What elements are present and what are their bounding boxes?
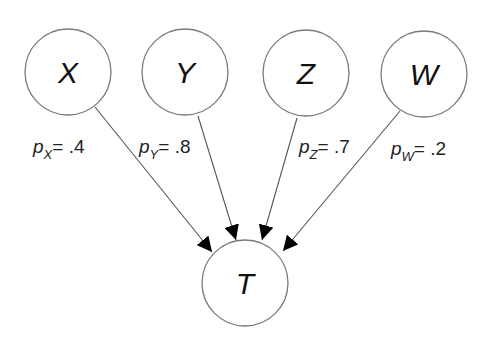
node-z: Z (263, 30, 349, 116)
node-label: W (410, 58, 441, 91)
prob-equals: = (52, 136, 68, 157)
prob-equals: = (318, 136, 334, 157)
probability-label-w: pW= .2 (390, 138, 446, 164)
node-y: Y (142, 29, 228, 115)
prob-value: .2 (430, 138, 446, 159)
node-w: W (381, 31, 467, 117)
arrow-icon (198, 116, 236, 240)
prob-equals: = (158, 136, 174, 157)
bayes-network-diagram: XYZWT pX= .4pY= .8pZ= .7pW= .2 (0, 0, 487, 339)
nodes-group: XYZWT (25, 29, 467, 326)
arrow-icon (95, 107, 212, 252)
node-label: Z (296, 57, 317, 90)
prob-value: .8 (175, 136, 191, 157)
prob-symbol: p (390, 138, 402, 159)
node-t: T (202, 240, 288, 326)
node-label: X (57, 56, 79, 89)
node-label: Y (175, 56, 197, 89)
prob-equals: = (414, 138, 430, 159)
prob-value: .4 (69, 136, 85, 157)
probability-label-z: pZ= .7 (298, 136, 350, 162)
prob-value: .7 (334, 136, 350, 157)
arrow-icon (262, 118, 297, 240)
probability-label-y: pY= .8 (138, 136, 190, 162)
arrow-icon (283, 111, 400, 251)
edge-x-to-t (95, 107, 212, 252)
prob-symbol: p (32, 136, 44, 157)
node-x: X (25, 29, 111, 115)
edge-y-to-t (198, 116, 236, 240)
edges-group (95, 107, 400, 252)
edge-w-to-t (283, 111, 400, 251)
probability-label-x: pX= .4 (32, 136, 85, 162)
node-label: T (236, 267, 257, 300)
prob-symbol: p (138, 136, 150, 157)
edge-z-to-t (262, 118, 297, 240)
prob-symbol: p (298, 136, 310, 157)
probabilities-group: pX= .4pY= .8pZ= .7pW= .2 (32, 136, 446, 164)
